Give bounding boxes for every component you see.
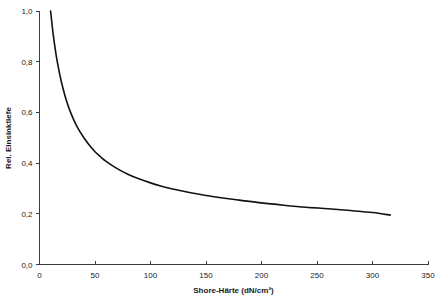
x-tick-label: 0 [37, 271, 42, 280]
chart-container: 0,00,20,40,60,81,0 050100150200250300350… [0, 0, 444, 305]
y-tick-label: 0,4 [21, 159, 33, 168]
y-axis-title: Rel. Einsinktiefe [4, 107, 13, 169]
x-tick-label: 250 [310, 271, 324, 280]
y-tick-label: 0,0 [21, 261, 33, 270]
y-tick-label: 0,2 [21, 210, 33, 219]
y-tick-label: 0,6 [21, 108, 33, 117]
x-tick-label: 150 [199, 271, 213, 280]
x-tick-label: 300 [366, 271, 380, 280]
x-tick-label: 200 [255, 271, 269, 280]
chart-plot-area: 0,00,20,40,60,81,0 050100150200250300350… [0, 0, 444, 305]
y-tick-label: 0,8 [21, 58, 33, 67]
chart-background [0, 0, 444, 305]
x-axis-title: Shore-Härte (dN/cm²) [193, 286, 274, 295]
x-tick-label: 100 [144, 271, 158, 280]
x-tick-label: 350 [421, 271, 435, 280]
y-tick-label: 1,0 [21, 7, 33, 16]
x-tick-label: 50 [91, 271, 100, 280]
